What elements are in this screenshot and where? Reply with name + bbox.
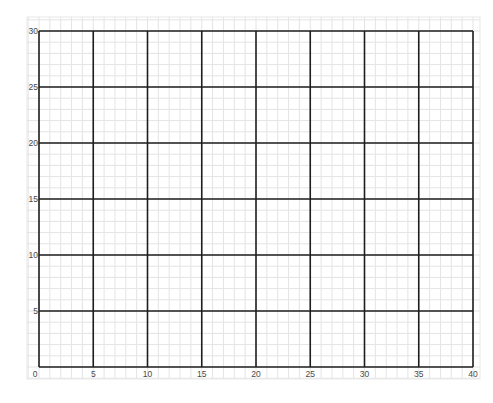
y-tick-label: 30 <box>29 26 39 36</box>
graph-paper: 0510152025303540 51015202530 <box>0 0 493 403</box>
x-tick-label: 30 <box>360 369 370 379</box>
y-tick-label: 20 <box>29 138 39 148</box>
x-tick-label: 15 <box>197 369 207 379</box>
x-tick-label: 0 <box>33 369 38 379</box>
x-tick-label: 20 <box>251 369 261 379</box>
x-tick-label: 5 <box>91 369 96 379</box>
x-axis-labels: 0510152025303540 <box>33 369 478 379</box>
y-axis-labels: 51015202530 <box>29 26 39 316</box>
x-tick-label: 10 <box>143 369 153 379</box>
y-tick-label: 5 <box>33 306 38 316</box>
y-tick-label: 15 <box>29 194 39 204</box>
x-tick-label: 40 <box>468 369 478 379</box>
minor-grid <box>27 17 480 379</box>
y-tick-label: 10 <box>29 250 39 260</box>
x-tick-label: 25 <box>306 369 316 379</box>
y-tick-label: 25 <box>29 82 39 92</box>
paper-border <box>27 17 480 379</box>
x-tick-label: 35 <box>414 369 424 379</box>
